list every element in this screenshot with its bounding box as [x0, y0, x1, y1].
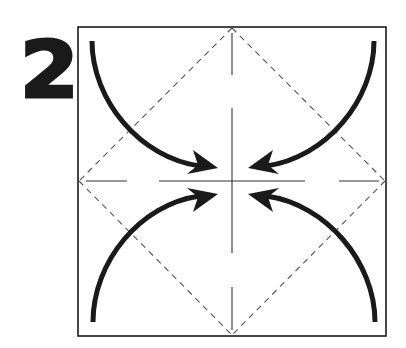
- origami-diagram: [0, 0, 406, 348]
